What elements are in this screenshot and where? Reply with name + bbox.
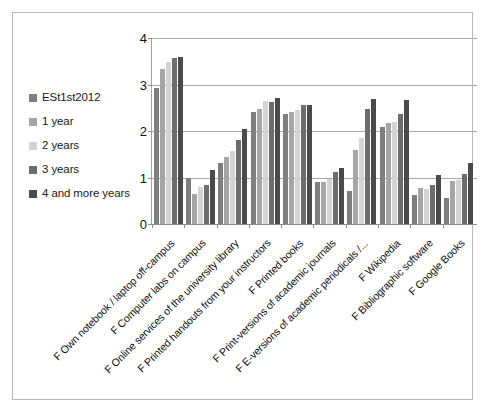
bar[interactable] bbox=[263, 101, 268, 224]
bar[interactable] bbox=[353, 150, 358, 224]
bar[interactable] bbox=[295, 110, 300, 224]
bar[interactable] bbox=[307, 105, 312, 225]
bar[interactable] bbox=[236, 140, 241, 224]
legend-item[interactable]: 1 year bbox=[29, 115, 137, 128]
bar[interactable] bbox=[210, 170, 215, 224]
x-axis-tickmark bbox=[378, 224, 379, 228]
bar-group bbox=[313, 38, 345, 224]
bar[interactable] bbox=[283, 114, 288, 224]
bar[interactable] bbox=[224, 157, 229, 224]
x-axis-tickmark bbox=[313, 224, 314, 228]
legend-item[interactable]: 4 and more years bbox=[29, 187, 137, 200]
bar-group bbox=[249, 38, 281, 224]
bar-group bbox=[217, 38, 249, 224]
legend-swatch-icon bbox=[29, 142, 37, 150]
bar-groups bbox=[152, 38, 475, 224]
x-axis-tickmark bbox=[217, 224, 218, 228]
x-axis-tickmark bbox=[346, 224, 347, 228]
bar[interactable] bbox=[456, 180, 461, 224]
bar-group bbox=[152, 38, 184, 224]
bar-group bbox=[378, 38, 410, 224]
bar[interactable] bbox=[333, 172, 338, 224]
bar[interactable] bbox=[160, 69, 165, 224]
x-axis-category-labels: F Own notebook / laptop off-campusF Comp… bbox=[125, 235, 485, 405]
legend-item-label: 4 and more years bbox=[42, 187, 130, 200]
bar[interactable] bbox=[392, 122, 397, 224]
bar-group bbox=[281, 38, 313, 224]
legend-item[interactable]: 3 years bbox=[29, 163, 137, 176]
bar[interactable] bbox=[321, 182, 326, 224]
bar[interactable] bbox=[172, 58, 177, 224]
bar[interactable] bbox=[204, 185, 209, 224]
legend-item-label: 1 year bbox=[42, 115, 73, 128]
bar[interactable] bbox=[315, 182, 320, 224]
bar[interactable] bbox=[450, 181, 455, 224]
bar[interactable] bbox=[418, 188, 423, 224]
legend-swatch-icon bbox=[29, 94, 37, 102]
legend-swatch-icon bbox=[29, 190, 37, 198]
x-axis-tickmark bbox=[152, 224, 153, 228]
bar[interactable] bbox=[436, 175, 441, 224]
legend-item-label: 3 years bbox=[42, 163, 79, 176]
bar[interactable] bbox=[166, 62, 171, 224]
chart-legend: ESt1st20121 year2 years3 years4 and more… bbox=[29, 91, 137, 211]
bar[interactable] bbox=[269, 102, 274, 224]
plot-canvas bbox=[151, 38, 475, 224]
x-axis-tickmark bbox=[410, 224, 411, 228]
bar[interactable] bbox=[468, 163, 473, 224]
bar[interactable] bbox=[380, 127, 385, 224]
bar[interactable] bbox=[412, 195, 417, 224]
x-axis-tickmark bbox=[249, 224, 250, 228]
legend-swatch-icon bbox=[29, 118, 37, 126]
y-axis-tick-label: 4 bbox=[140, 31, 147, 46]
bar[interactable] bbox=[404, 100, 409, 224]
y-axis-tick-label: 2 bbox=[140, 124, 147, 139]
plot-area: 01234 bbox=[125, 29, 475, 234]
bar-group bbox=[184, 38, 216, 224]
bar[interactable] bbox=[275, 98, 280, 224]
bar-group bbox=[346, 38, 378, 224]
y-axis-tick-label: 3 bbox=[140, 77, 147, 92]
legend-swatch-icon bbox=[29, 166, 37, 174]
bar[interactable] bbox=[289, 112, 294, 224]
bar[interactable] bbox=[242, 129, 247, 224]
bar[interactable] bbox=[327, 179, 332, 224]
bar[interactable] bbox=[301, 105, 306, 224]
bar[interactable] bbox=[347, 191, 352, 224]
bar-group bbox=[443, 38, 475, 224]
x-axis-tickmark bbox=[184, 224, 185, 228]
bar[interactable] bbox=[154, 88, 159, 224]
bar[interactable] bbox=[230, 151, 235, 224]
bar[interactable] bbox=[257, 109, 262, 224]
legend-item[interactable]: 2 years bbox=[29, 139, 137, 152]
bar[interactable] bbox=[462, 174, 467, 224]
chart-frame: ESt1st20121 year2 years3 years4 and more… bbox=[12, 12, 473, 400]
bar[interactable] bbox=[398, 114, 403, 224]
bar[interactable] bbox=[251, 112, 256, 224]
y-axis-tick-label: 0 bbox=[140, 217, 147, 232]
legend-item[interactable]: ESt1st2012 bbox=[29, 91, 137, 104]
bar[interactable] bbox=[424, 189, 429, 224]
bar[interactable] bbox=[386, 123, 391, 224]
x-axis-tickmark bbox=[443, 224, 444, 228]
bar-group bbox=[410, 38, 442, 224]
x-axis-tickmark bbox=[281, 224, 282, 228]
bar[interactable] bbox=[198, 187, 203, 224]
bar[interactable] bbox=[339, 168, 344, 224]
bar[interactable] bbox=[192, 194, 197, 224]
bar[interactable] bbox=[371, 99, 376, 224]
y-axis-tick-label: 1 bbox=[140, 170, 147, 185]
bar[interactable] bbox=[359, 138, 364, 224]
bar[interactable] bbox=[365, 109, 370, 224]
bar[interactable] bbox=[444, 198, 449, 224]
legend-item-label: 2 years bbox=[42, 139, 79, 152]
bar[interactable] bbox=[178, 57, 183, 224]
bar[interactable] bbox=[430, 185, 435, 224]
bar[interactable] bbox=[218, 163, 223, 224]
legend-item-label: ESt1st2012 bbox=[42, 91, 100, 104]
y-axis: 01234 bbox=[125, 29, 147, 219]
x-axis-line bbox=[152, 224, 477, 225]
bar[interactable] bbox=[186, 178, 191, 225]
